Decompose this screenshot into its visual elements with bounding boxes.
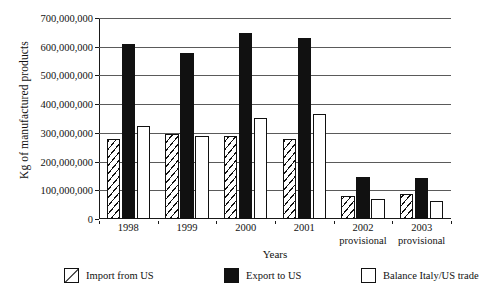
bar-balance-1999: [195, 136, 209, 219]
bar-import-2000: [224, 136, 238, 219]
bar-import-1998: [107, 139, 121, 219]
x-tick-year: 1999: [176, 222, 197, 233]
bar-balance-2002: [371, 199, 385, 219]
bar-group: [400, 18, 444, 219]
bar-series-container: [99, 18, 451, 219]
bar-group: [341, 18, 385, 219]
legend-item-2: Balance Italy/US trade: [361, 268, 479, 283]
bar-balance-2001: [313, 114, 327, 219]
bar-export-1998: [122, 44, 136, 219]
bar-group: [165, 18, 209, 219]
x-tick-year: 1998: [118, 222, 139, 233]
x-tick-year: 2003: [411, 222, 432, 233]
chart-legend: Import from USExport to USBalance Italy/…: [64, 268, 464, 290]
legend-label: Export to US: [246, 270, 301, 281]
x-axis-tick-mark: [99, 221, 100, 224]
y-axis-tick-label: 400,000,000: [41, 99, 94, 110]
y-axis-tick-mark: [95, 190, 99, 191]
legend-label: Balance Italy/US trade: [383, 270, 479, 281]
bar-import-2003: [400, 194, 414, 219]
bar-import-1999: [165, 134, 179, 219]
x-axis-tick-label-2002: 2002provisional: [334, 221, 393, 247]
x-axis-tick-mark: [451, 221, 452, 224]
x-axis-tick-label-1998: 1998: [99, 221, 158, 234]
x-tick-year: 2002: [352, 222, 373, 233]
x-tick-year: 2000: [235, 222, 256, 233]
y-axis-tick-mark: [95, 75, 99, 76]
y-axis-tick-label: 700,000,000: [41, 13, 94, 24]
y-axis-tick-mark: [95, 219, 99, 220]
bar-group: [224, 18, 268, 219]
bar-group: [283, 18, 327, 219]
legend-item-0: Import from US: [64, 268, 154, 283]
y-axis-tick-mark: [95, 18, 99, 19]
bar-balance-1998: [137, 126, 151, 219]
plot-area: [99, 18, 451, 219]
y-axis-tick-mark: [95, 162, 99, 163]
y-axis-tick-mark: [95, 133, 99, 134]
y-axis-tick-mark: [95, 104, 99, 105]
x-axis-tick-label-2003: 2003provisional: [392, 221, 451, 247]
x-axis-tick-label-2001: 2001: [275, 221, 334, 234]
y-axis-tick-label: 600,000,000: [41, 41, 94, 52]
y-axis-tick-mark: [95, 47, 99, 48]
white-swatch-icon: [361, 268, 376, 283]
x-tick-sublabel: provisional: [392, 234, 451, 247]
bar-export-2001: [298, 38, 312, 219]
bar-group: [107, 18, 151, 219]
bar-balance-2003: [430, 201, 444, 219]
bar-export-2002: [356, 177, 370, 219]
legend-label: Import from US: [86, 270, 154, 281]
y-axis-tick-labels: 0100,000,000200,000,000300,000,000400,00…: [0, 18, 93, 219]
y-axis-tick-label: 0: [88, 214, 93, 225]
bar-balance-2000: [254, 118, 268, 219]
bar-export-2000: [239, 33, 253, 219]
x-tick-sublabel: provisional: [334, 234, 393, 247]
y-axis-tick-label: 100,000,000: [41, 185, 94, 196]
bar-import-2002: [341, 196, 355, 219]
y-axis-tick-label: 200,000,000: [41, 156, 94, 167]
y-axis-tick-label: 500,000,000: [41, 70, 94, 81]
bar-export-2003: [415, 178, 429, 219]
x-axis-tick-label-2000: 2000: [216, 221, 275, 234]
x-axis-tick-label-1999: 1999: [158, 221, 217, 234]
y-axis-tick-label: 300,000,000: [41, 127, 94, 138]
x-axis-title: Years: [99, 248, 451, 260]
bar-import-2001: [283, 139, 297, 219]
bar-export-1999: [180, 53, 194, 219]
legend-item-1: Export to US: [224, 268, 301, 283]
x-tick-year: 2001: [294, 222, 315, 233]
hatched-swatch-icon: [64, 268, 79, 283]
black-swatch-icon: [224, 268, 239, 283]
